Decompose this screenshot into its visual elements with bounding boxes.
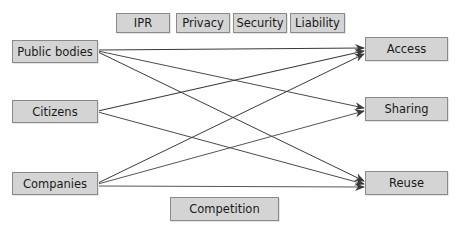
actor-companies-label: Companies <box>23 177 87 191</box>
factor-competition: Competition <box>170 197 279 221</box>
factor-ipr: IPR <box>116 13 170 33</box>
activity-reuse: Reuse <box>365 171 448 195</box>
factor-competition-label: Competition <box>189 202 259 216</box>
edge-public-bodies-access <box>98 48 364 50</box>
factor-ipr-label: IPR <box>134 16 152 30</box>
activity-access-label: Access <box>387 42 426 56</box>
actor-companies: Companies <box>12 172 98 195</box>
factor-privacy-label: Privacy <box>182 16 224 30</box>
actor-public-bodies-label: Public bodies <box>17 45 93 59</box>
actor-public-bodies: Public bodies <box>12 40 98 63</box>
activity-sharing: Sharing <box>365 97 448 121</box>
actor-citizens-label: Citizens <box>32 105 77 119</box>
factor-privacy: Privacy <box>176 13 230 33</box>
edge-companies-access <box>98 54 364 183</box>
factor-security: Security <box>233 13 287 33</box>
edge-companies-reuse <box>98 186 364 187</box>
activity-sharing-label: Sharing <box>384 102 428 116</box>
factor-liability-label: Liability <box>295 16 340 30</box>
factor-liability: Liability <box>290 13 345 33</box>
activity-reuse-label: Reuse <box>389 176 424 190</box>
activity-access: Access <box>365 37 448 61</box>
factor-security-label: Security <box>236 16 283 30</box>
edge-public-bodies-reuse <box>98 52 364 181</box>
actor-citizens: Citizens <box>12 100 98 123</box>
